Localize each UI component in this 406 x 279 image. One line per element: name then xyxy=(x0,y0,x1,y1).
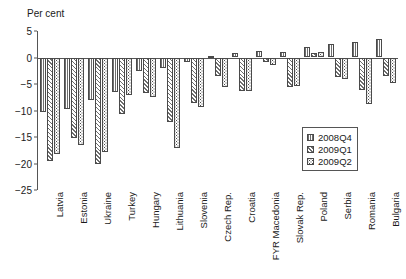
bar xyxy=(126,58,132,95)
x-axis-category-label: Lithuania xyxy=(174,192,185,231)
bar xyxy=(246,58,252,91)
bar-chart: Per cent 50−5−10−15−20−25 LatviaEstoniaU… xyxy=(0,0,406,279)
x-axis-category-label: Latvia xyxy=(54,192,65,217)
bar xyxy=(191,58,197,103)
x-axis-category-label: Estonia xyxy=(78,192,89,224)
x-axis-category-label: Hungary xyxy=(150,192,161,228)
legend-label-2009q1: 2009Q1 xyxy=(318,144,352,155)
bar-group xyxy=(232,31,251,190)
legend-label-2009q2: 2009Q2 xyxy=(318,156,352,167)
legend-item-2009q2: 2009Q2 xyxy=(307,155,352,167)
bar xyxy=(215,58,221,76)
legend-swatch-vertical-lines-icon xyxy=(307,134,314,141)
x-axis-category-label: Ukraine xyxy=(102,192,113,225)
bar xyxy=(304,47,310,58)
legend-swatch-dots-icon xyxy=(307,158,314,165)
bar xyxy=(102,58,108,152)
y-axis-tick-label: −25 xyxy=(15,185,32,196)
bar xyxy=(366,58,372,105)
bar xyxy=(383,58,389,77)
x-axis-category-label: Slovak Rep. xyxy=(294,192,305,243)
x-axis-category-label: Serbia xyxy=(342,192,353,219)
bar-group xyxy=(184,31,203,190)
bar xyxy=(167,58,173,123)
bar xyxy=(47,58,53,162)
x-axis-category-labels: LatviaEstoniaUkraineTurkeyHungaryLithuan… xyxy=(38,192,398,279)
bar xyxy=(311,53,317,57)
bar-group xyxy=(160,31,179,190)
x-axis-category-label: Bulgaria xyxy=(390,192,401,227)
x-axis-category-label: Slovenia xyxy=(198,192,209,228)
bar xyxy=(208,56,214,58)
bar xyxy=(119,58,125,114)
bar-group xyxy=(208,31,227,190)
bar-group xyxy=(280,31,299,190)
bar xyxy=(335,58,341,77)
bar xyxy=(112,58,118,92)
y-axis-ticks: 50−5−10−15−20−25 xyxy=(0,0,37,190)
bar-group xyxy=(136,31,155,190)
x-axis-category-label: Poland xyxy=(318,192,329,222)
bar xyxy=(294,58,300,87)
bar xyxy=(150,58,156,97)
bar-group xyxy=(112,31,131,190)
y-axis-tick-label: −5 xyxy=(21,79,32,90)
bar xyxy=(95,58,101,164)
y-axis-tick-label: 5 xyxy=(26,26,32,37)
bar xyxy=(359,58,365,91)
legend: 2008Q4 2009Q1 2009Q2 xyxy=(302,127,358,171)
bar xyxy=(71,58,77,138)
legend-item-2009q1: 2009Q1 xyxy=(307,143,352,155)
x-axis-category-label: Romania xyxy=(366,192,377,230)
y-axis-tick-label: −20 xyxy=(15,158,32,169)
bar xyxy=(88,58,94,100)
x-axis-category-label: FYR Macedonia xyxy=(270,192,281,260)
bar xyxy=(232,53,238,57)
bar-group xyxy=(256,31,275,190)
bar xyxy=(256,51,262,57)
bar xyxy=(263,58,269,63)
bar xyxy=(376,39,382,58)
bar xyxy=(280,52,286,57)
x-axis-category-label: Croatia xyxy=(246,192,257,223)
bar-group xyxy=(88,31,107,190)
bar xyxy=(78,58,84,146)
bar-group xyxy=(376,31,395,190)
bar-group xyxy=(64,31,83,190)
bar xyxy=(143,58,149,94)
bar xyxy=(239,58,245,92)
bar xyxy=(342,58,348,79)
legend-item-2008q4: 2008Q4 xyxy=(307,131,352,143)
bar xyxy=(184,58,190,62)
bar xyxy=(64,58,70,109)
bar xyxy=(198,58,204,107)
y-axis-tick-label: −10 xyxy=(15,105,32,116)
y-axis-tick-label: 0 xyxy=(26,52,32,63)
bar xyxy=(287,58,293,88)
bar xyxy=(174,58,180,148)
bar xyxy=(160,58,166,69)
bar xyxy=(318,52,324,58)
bar xyxy=(222,58,228,87)
bar xyxy=(54,58,60,154)
y-axis-tick-label: −15 xyxy=(15,132,32,143)
bar xyxy=(40,58,46,113)
x-axis-category-label: Czech Rep. xyxy=(222,192,233,242)
legend-label-2008q4: 2008Q4 xyxy=(318,132,352,143)
bar xyxy=(270,58,276,65)
bar xyxy=(136,58,142,71)
x-axis-category-label: Turkey xyxy=(126,192,137,221)
bar-group xyxy=(40,31,59,190)
bar xyxy=(328,44,334,58)
legend-swatch-diagonal-hatch-icon xyxy=(307,146,314,153)
bar xyxy=(352,42,358,57)
bar xyxy=(390,58,396,84)
